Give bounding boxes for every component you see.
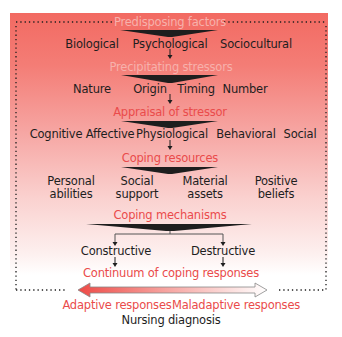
heading-predisposing-factors: Predisposing factors [114,15,226,29]
funnel-wedge-1 [120,30,218,37]
item-positive-beliefs: Positive beliefs [255,175,298,201]
label-nursing-diagnosis: Nursing diagnosis [122,313,221,327]
item-behavioral: Behavioral [216,127,275,141]
funnel-wedge-5 [86,224,252,231]
item-sociocultural: Sociocultural [220,37,292,51]
item-constructive: Constructive [81,244,151,258]
heading-precipitating-stressors: Precipitating stressors [110,60,233,74]
item-line: beliefs [255,188,298,201]
item-line: abilities [47,188,94,201]
item-destructive: Destructive [191,244,255,258]
item-line: support [116,188,159,201]
item-physiological: Physiological [136,127,208,141]
label-maladaptive-responses: Maladaptive responses [172,298,300,312]
item-social-support: Social support [116,175,159,201]
funnel-wedge-4 [121,167,218,174]
heading-appraisal-of-stressor: Appraisal of stressor [113,105,227,119]
item-cognitive: Cognitive [30,127,83,141]
item-material-assets: Material assets [182,175,227,201]
item-psychological: Psychological [133,37,208,51]
label-adaptive-responses: Adaptive responses [62,298,171,312]
item-social: Social [284,127,317,141]
item-personal-abilities: Personal abilities [47,175,94,201]
item-affective: Affective [86,127,135,141]
item-nature: Nature [73,82,111,96]
item-line: assets [182,188,227,201]
item-biological: Biological [65,37,118,51]
item-timing: Timing [177,82,215,96]
item-number: Number [223,82,268,96]
heading-coping-resources: Coping resources [122,151,218,165]
heading-continuum-of-coping-responses: Continuum of coping responses [83,266,259,280]
heading-coping-mechanisms: Coping mechanisms [113,208,226,222]
continuum-double-arrow [78,283,267,297]
item-origin: Origin [133,82,167,96]
